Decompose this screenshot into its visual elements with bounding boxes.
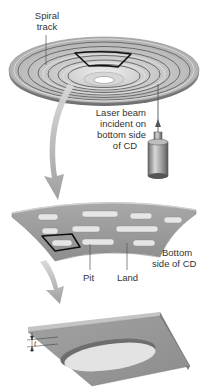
- laser-label-line-3: bottom side: [90, 129, 146, 140]
- laser-device-icon: [148, 140, 168, 179]
- laser-beam-arrowhead: [155, 119, 161, 127]
- cd-disc: [9, 37, 199, 106]
- laser-label-line-4: of CD: [90, 140, 146, 151]
- spiral-track-label-line-1: Spiral: [30, 10, 64, 21]
- spiral-track-label-line-2: track: [30, 21, 64, 32]
- pit-detail-block: [28, 312, 190, 386]
- zoom-arrow-2: [40, 260, 64, 304]
- pit-depth-label: t: [34, 338, 36, 349]
- spiral-track-label: Spiral track: [30, 10, 64, 32]
- bottom-side-label-line-2: side of CD: [152, 258, 212, 269]
- bottom-side-label-line-1: Bottom: [152, 247, 212, 258]
- land-label: Land: [117, 272, 138, 283]
- laser-label: Laser beam incident on bottom side of CD: [90, 107, 146, 151]
- laser-label-line-1: Laser beam: [90, 107, 146, 118]
- center-hole: [94, 77, 114, 84]
- cd-diagram: [0, 0, 212, 387]
- bottom-side-label: Bottom side of CD: [152, 247, 212, 269]
- pit-label: Pit: [83, 272, 94, 283]
- laser-label-line-2: incident on: [90, 118, 146, 129]
